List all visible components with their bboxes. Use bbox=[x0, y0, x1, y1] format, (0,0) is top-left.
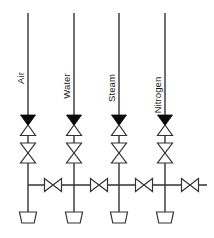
inline-valve-right-icon bbox=[144, 179, 153, 192]
inline-valve-right-icon bbox=[99, 179, 108, 192]
inlet-arrow-icon bbox=[21, 115, 36, 126]
diagram-canvas: AirWaterSteamNitrogen bbox=[0, 0, 214, 238]
drain-bucket-icon bbox=[66, 212, 83, 223]
inlet-arrow-icon bbox=[112, 115, 127, 126]
utility-header-diagram: AirWaterSteamNitrogen bbox=[0, 0, 214, 238]
gate-valve-2-upper-icon bbox=[67, 143, 82, 153]
inline-valve-left-icon bbox=[45, 179, 54, 192]
gate-valve-1-icon bbox=[67, 125, 82, 136]
supply-line-group-water: Water bbox=[61, 13, 108, 223]
gate-valve-2-upper-icon bbox=[21, 143, 36, 153]
gate-valve-1-icon bbox=[158, 125, 173, 136]
drain-bucket-icon bbox=[20, 212, 37, 223]
gate-valve-1-icon bbox=[21, 125, 36, 136]
gate-valve-2-upper-icon bbox=[112, 143, 127, 153]
inline-valve-right-icon bbox=[53, 179, 62, 192]
gate-valve-2-lower-icon bbox=[21, 153, 36, 163]
gate-valve-2-lower-icon bbox=[158, 153, 173, 163]
gate-valve-1-icon bbox=[112, 125, 127, 136]
gate-valve-2-upper-icon bbox=[158, 143, 173, 153]
pipe-label-nitrogen: Nitrogen bbox=[152, 77, 163, 114]
drain-bucket-icon bbox=[111, 212, 128, 223]
gate-valve-2-lower-icon bbox=[112, 153, 127, 163]
pipe-label-air: Air bbox=[15, 72, 26, 84]
inlet-arrow-icon bbox=[67, 115, 82, 126]
inline-valve-right-icon bbox=[190, 179, 199, 192]
pipe-label-steam: Steam bbox=[106, 74, 117, 102]
inline-valve-left-icon bbox=[91, 179, 100, 192]
inline-valve-left-icon bbox=[136, 179, 145, 192]
supply-line-group-steam: Steam bbox=[106, 13, 153, 223]
inline-valve-left-icon bbox=[182, 179, 191, 192]
drain-bucket-icon bbox=[157, 212, 174, 223]
supply-line-group-air: Air bbox=[15, 13, 62, 223]
pipe-label-water: Water bbox=[61, 73, 72, 98]
gate-valve-2-lower-icon bbox=[67, 153, 82, 163]
inlet-arrow-icon bbox=[158, 115, 173, 126]
supply-line-group-nitrogen: Nitrogen bbox=[152, 13, 199, 223]
